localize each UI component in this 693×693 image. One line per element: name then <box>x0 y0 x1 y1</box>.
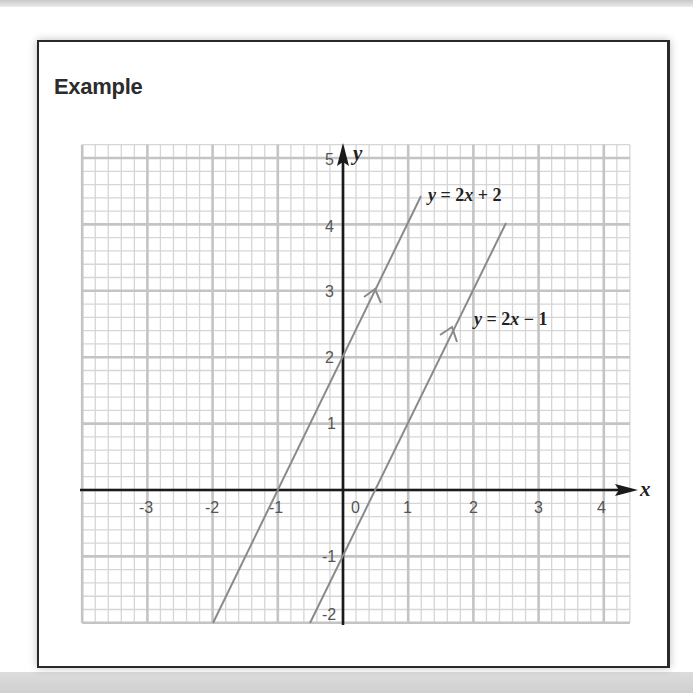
y-tick: 1 <box>327 415 336 432</box>
y-tick: -1 <box>322 548 336 565</box>
x-tick: -2 <box>205 499 219 516</box>
eq-var-x: x <box>463 185 473 205</box>
x-axis-label: x <box>639 477 651 501</box>
x-tick: 1 <box>403 499 412 516</box>
x-tick: 3 <box>534 499 543 516</box>
y-tick-labels: 5 4 3 2 1 -1 -2 <box>322 151 336 623</box>
y-tick: 2 <box>325 349 334 366</box>
x-tick: 2 <box>469 499 478 516</box>
eq-part: = 2 <box>482 309 510 329</box>
equation-label-line2: y = 2x − 1 <box>472 309 548 329</box>
y-tick: 4 <box>325 218 334 235</box>
y-tick: 3 <box>325 283 334 300</box>
y-tick: 5 <box>325 151 334 168</box>
eq-var-x: x <box>509 309 519 329</box>
eq-part: + 2 <box>473 185 501 205</box>
y-tick: -2 <box>322 606 336 623</box>
x-tick: 0 <box>351 499 360 516</box>
coordinate-graph: x y -3 -2 -1 0 1 2 3 4 5 4 3 2 1 -1 -2 y… <box>0 0 693 693</box>
eq-part: − 1 <box>519 309 547 329</box>
x-tick: 4 <box>597 499 606 516</box>
minor-grid <box>82 145 630 623</box>
x-tick: -3 <box>139 499 153 516</box>
equation-label-line1: y = 2x + 2 <box>426 185 502 205</box>
x-tick-labels: -3 -2 -1 0 1 2 3 4 <box>139 499 606 516</box>
eq-part: = 2 <box>436 185 464 205</box>
